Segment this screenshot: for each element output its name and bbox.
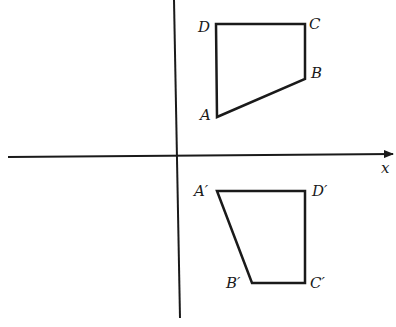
vertex-label-d-prime: D′ [312,184,327,199]
vertex-label-c: C [309,17,320,32]
coordinate-diagram [0,0,396,327]
x-axis [8,154,393,157]
quadrilateral-abcd [216,24,305,117]
vertex-label-b-prime: B′ [226,276,240,291]
x-axis-label: x [381,161,389,176]
quadrilateral-abcd-prime [217,191,305,283]
vertex-label-b: B [311,66,322,81]
y-axis [174,0,180,318]
vertex-label-a: A [200,108,211,123]
vertex-label-c-prime: C′ [310,276,325,291]
vertex-label-d: D [198,20,210,35]
vertex-label-a-prime: A′ [194,184,208,199]
